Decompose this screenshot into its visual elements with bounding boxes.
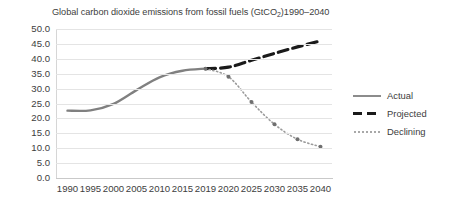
plot-area xyxy=(56,29,332,178)
legend-item-projected[interactable]: Projected xyxy=(352,106,452,122)
series-marker-declining xyxy=(204,67,208,71)
series-line-declining xyxy=(206,69,321,147)
x-axis-tick-label: 2005 xyxy=(126,183,147,195)
gridline xyxy=(56,44,332,45)
y-axis-tick-label: 15.0 xyxy=(16,128,50,138)
x-axis-tick-label: 2019 xyxy=(195,183,216,195)
gridline xyxy=(56,29,332,30)
series-marker-declining xyxy=(227,75,231,79)
y-axis-tick-label: 5.0 xyxy=(16,158,50,168)
y-axis-tick-label: 50.0 xyxy=(16,24,50,34)
legend-item-label: Actual xyxy=(387,91,413,101)
y-axis: 0.05.010.015.020.025.030.035.040.045.050… xyxy=(12,0,50,208)
x-axis: 1990199520002005201020152019202020252030… xyxy=(0,183,454,201)
y-axis-tick-label: 10.0 xyxy=(16,143,50,153)
dashed-line-swatch xyxy=(352,109,382,119)
gridline xyxy=(56,89,332,90)
dashed-line-swatch-glyph xyxy=(353,112,381,115)
gridline xyxy=(56,59,332,60)
chart-title-main: Global carbon dioxide emissions from fos… xyxy=(52,7,277,17)
x-axis-tick-label: 2030 xyxy=(264,183,285,195)
legend-item-actual[interactable]: Actual xyxy=(352,88,452,104)
chart-title: Global carbon dioxide emissions from fos… xyxy=(52,6,352,19)
x-axis-tick-label: 2040 xyxy=(310,183,331,195)
y-axis-tick-label: 0.0 xyxy=(16,173,50,183)
x-axis-tick-label: 1990 xyxy=(57,183,78,195)
series-line-actual xyxy=(68,69,206,111)
gridline xyxy=(56,148,332,149)
y-axis-tick-label: 25.0 xyxy=(16,99,50,109)
plot-bottom-border xyxy=(56,178,333,179)
x-axis-tick-label: 2000 xyxy=(103,183,124,195)
solid-line-swatch-glyph xyxy=(353,95,381,97)
gridline xyxy=(56,118,332,119)
dotted-line-swatch-glyph xyxy=(354,131,380,133)
y-axis-tick-label: 20.0 xyxy=(16,113,50,123)
chart-title-tail: )1990–2040 xyxy=(281,7,330,17)
y-axis-tick-label: 45.0 xyxy=(16,39,50,49)
gridline xyxy=(56,74,332,75)
x-axis-tick-label: 2025 xyxy=(241,183,262,195)
solid-line-swatch xyxy=(352,91,382,101)
gridline xyxy=(56,163,332,164)
series-marker-declining xyxy=(273,122,277,126)
gridline xyxy=(56,133,332,134)
chart-legend: ActualProjectedDeclining xyxy=(352,88,452,142)
y-axis-tick-label: 30.0 xyxy=(16,84,50,94)
y-axis-tick-label: 35.0 xyxy=(16,69,50,79)
x-axis-tick-label: 2015 xyxy=(172,183,193,195)
x-axis-tick-label: 1995 xyxy=(80,183,101,195)
gridline xyxy=(56,104,332,105)
legend-item-declining[interactable]: Declining xyxy=(352,124,452,140)
chart-container: Global carbon dioxide emissions from fos… xyxy=(0,0,454,208)
dotted-line-swatch xyxy=(352,127,382,137)
x-axis-tick-label: 2035 xyxy=(287,183,308,195)
series-line-projected xyxy=(206,41,321,69)
legend-item-label: Projected xyxy=(387,109,427,119)
x-axis-tick-label: 2010 xyxy=(149,183,170,195)
y-axis-tick-label: 40.0 xyxy=(16,54,50,64)
legend-item-label: Declining xyxy=(387,127,426,137)
series-marker-declining xyxy=(296,137,300,141)
x-axis-tick-label: 2020 xyxy=(218,183,239,195)
chart-title-subscript: 2 xyxy=(277,11,281,18)
